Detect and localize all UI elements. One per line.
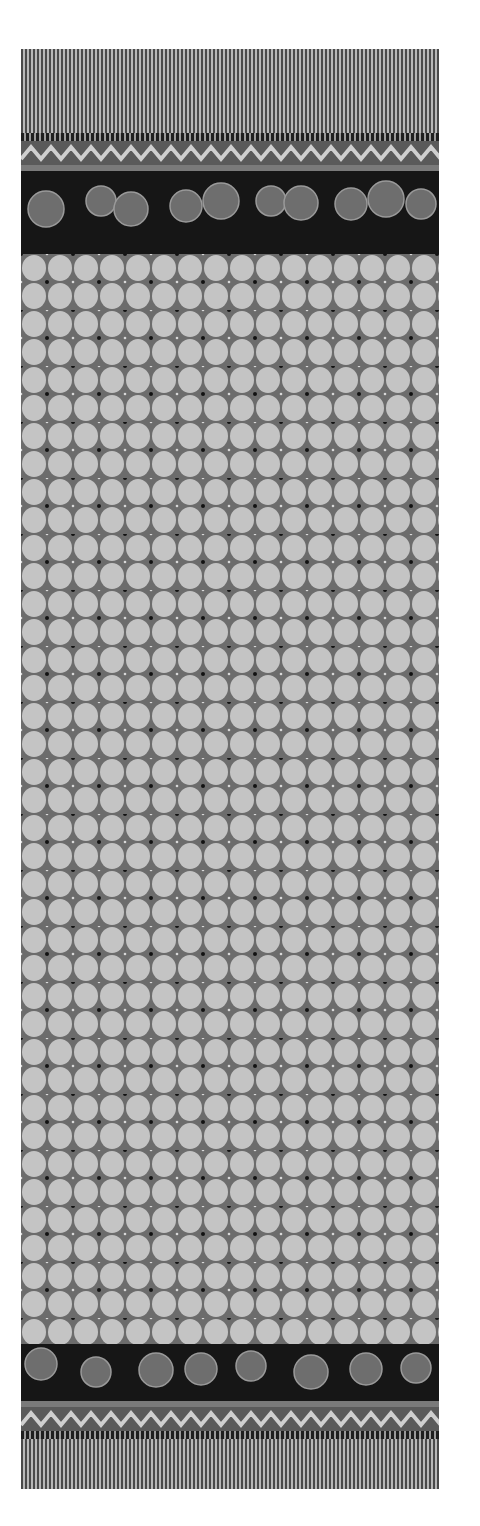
bottom-floral-border (21, 1344, 439, 1401)
top-floral-border (21, 171, 439, 254)
bottom-zigzag-band (21, 1407, 439, 1431)
top-dotted-line (21, 133, 439, 141)
top-stripe-border (21, 49, 439, 133)
central-oval-field (21, 254, 439, 1344)
bottom-dotted-line (21, 1431, 439, 1439)
batik-textile (21, 49, 439, 1489)
top-zigzag-band (21, 141, 439, 165)
bottom-stripe-border (21, 1439, 439, 1489)
